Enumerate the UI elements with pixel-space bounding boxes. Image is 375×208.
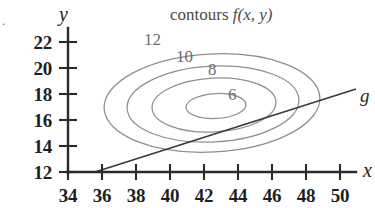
contour-label-6: 6 [228, 86, 237, 103]
y-tick-label-22: 22 [18, 33, 52, 52]
x-tick-label-46: 46 [258, 186, 286, 205]
curve-label-g: g [360, 86, 370, 105]
y-tick-label-18: 18 [18, 85, 52, 104]
plot-title-args: (x, y) [238, 5, 273, 24]
constraint-line-g [95, 89, 356, 172]
x-tick-label-40: 40 [156, 186, 184, 205]
corner-mark: . [2, 14, 5, 27]
contour-plot-figure: . contours f(x, y) y x 22 20 18 16 14 12… [0, 0, 375, 208]
y-tick-label-14: 14 [18, 137, 52, 156]
x-tick-label-48: 48 [292, 186, 320, 205]
plot-title-prefix: contours [170, 5, 233, 24]
y-tick-label-12: 12 [18, 163, 52, 182]
x-tick-label-36: 36 [88, 186, 116, 205]
plot-title: contours f(x, y) [170, 6, 272, 23]
contour-label-10: 10 [176, 48, 193, 65]
y-axis-name: y [59, 4, 68, 24]
contour-label-12: 12 [144, 31, 161, 48]
y-tick-label-16: 16 [18, 111, 52, 130]
contour-label-8: 8 [208, 61, 217, 78]
contour-ellipse-8 [151, 75, 278, 135]
y-tick-label-20: 20 [18, 59, 52, 78]
x-tick-label-38: 38 [122, 186, 150, 205]
axis-lines [67, 28, 356, 173]
contour-ellipse-6 [185, 92, 246, 120]
x-axis-name: x [363, 160, 372, 180]
x-tick-label-44: 44 [224, 186, 252, 205]
x-tick-label-34: 34 [54, 186, 82, 205]
plot-canvas [0, 0, 375, 208]
x-tick-label-42: 42 [190, 186, 218, 205]
x-tick-label-50: 50 [326, 186, 354, 205]
